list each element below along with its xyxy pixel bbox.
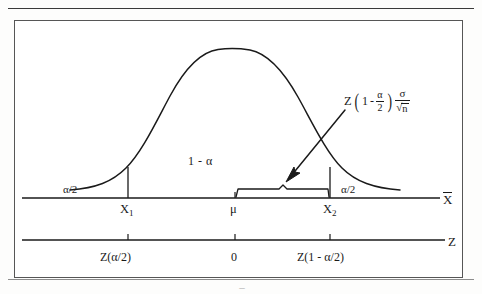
label-x1-base: X xyxy=(120,202,129,216)
page-ghost-text-top xyxy=(86,0,146,7)
label-z-lower-critical: Z(α/2) xyxy=(100,251,131,263)
label-x1-subscript: 1 xyxy=(129,208,134,218)
formula-alpha-over-two: α 2 xyxy=(376,90,384,113)
page-rule-top xyxy=(8,8,474,9)
formula-z: Z xyxy=(344,94,352,109)
formula-sqrt-group: √ n xyxy=(396,102,408,114)
formula-paren-open: ( xyxy=(354,92,359,110)
formula-sigma-over-sqrt-n: σ √ n xyxy=(395,88,409,114)
formula-sqrt-n: √ n xyxy=(395,101,409,114)
formula-one: 1 xyxy=(362,94,368,109)
label-mu: μ xyxy=(230,203,237,216)
formula-n: n xyxy=(401,103,408,115)
page-ghost-text-bottom: – xyxy=(230,283,254,291)
label-z-zero: 0 xyxy=(231,251,237,263)
figure-frame xyxy=(14,20,463,278)
formula-alpha: α xyxy=(376,90,383,101)
label-alpha-half-left: α/2 xyxy=(63,184,77,195)
formula-inner-terms: 1 - α 2 xyxy=(361,90,385,113)
label-x2: X2 xyxy=(323,203,337,218)
label-x1: X1 xyxy=(120,203,134,218)
formula-two: 2 xyxy=(376,102,383,113)
label-x2-base: X xyxy=(323,202,332,216)
formula-paren-close: ) xyxy=(387,92,392,110)
label-z-upper-critical: Z(1 - α/2) xyxy=(297,251,344,263)
label-confidence-level: 1 - α xyxy=(188,155,213,167)
xbar-glyph: X xyxy=(443,192,452,206)
label-alpha-half-right: α/2 xyxy=(341,184,355,195)
margin-of-error-formula: Z ( 1 - α 2 ) σ √ n xyxy=(344,88,410,114)
formula-sigma: σ xyxy=(398,88,406,100)
label-xbar-axis: X xyxy=(443,192,452,206)
label-z-axis: Z xyxy=(448,235,456,248)
page-rule-bottom xyxy=(8,279,474,280)
label-x2-subscript: 2 xyxy=(332,208,337,218)
formula-minus: - xyxy=(370,94,374,109)
